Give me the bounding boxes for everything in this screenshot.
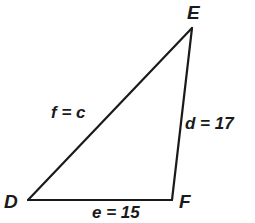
side-label-f: f = c [51,104,86,121]
vertex-label-F: F [179,192,191,211]
side-label-e: e = 15 [92,204,140,221]
triangle-shape [0,0,255,223]
vertex-label-D: D [4,192,18,211]
vertex-label-E: E [187,3,200,22]
triangle-diagram: E D F f = c d = 17 e = 15 [0,0,255,223]
side-label-d: d = 17 [185,115,234,132]
